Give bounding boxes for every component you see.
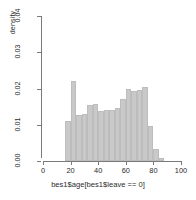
y-axis-tick bbox=[37, 125, 41, 126]
x-axis-tick-label: 0 bbox=[31, 166, 55, 175]
y-axis-tick bbox=[37, 161, 41, 162]
histogram-bar bbox=[159, 158, 165, 161]
histogram-plot: density 0.000.010.020.030.04 02040608010… bbox=[0, 0, 196, 200]
x-axis-tick bbox=[153, 161, 154, 165]
x-axis-tick bbox=[126, 161, 127, 165]
x-axis-title: bes1$age[bes1$leave == 0] bbox=[0, 180, 196, 189]
x-axis-tick bbox=[181, 161, 182, 165]
y-axis-tick-label: 0.04 bbox=[13, 1, 22, 31]
x-axis-tick-label: 20 bbox=[59, 166, 83, 175]
x-axis-tick-label: 100 bbox=[169, 166, 193, 175]
x-axis-tick bbox=[98, 161, 99, 165]
y-axis-tick-label: 0.02 bbox=[13, 73, 22, 103]
y-axis-tick bbox=[37, 89, 41, 90]
y-axis-line bbox=[41, 16, 42, 158]
plot-area bbox=[43, 16, 181, 161]
y-axis-tick-label: 0.01 bbox=[13, 109, 22, 139]
y-axis-tick bbox=[37, 16, 41, 17]
x-axis-tick-label: 40 bbox=[86, 166, 110, 175]
x-axis-line bbox=[43, 161, 181, 162]
x-axis-tick-label: 60 bbox=[114, 166, 138, 175]
y-axis-tick bbox=[37, 52, 41, 53]
x-axis-tick bbox=[71, 161, 72, 165]
y-axis-tick-label: 0.00 bbox=[13, 146, 22, 176]
x-axis-tick-label: 80 bbox=[141, 166, 165, 175]
x-axis-tick bbox=[43, 161, 44, 165]
y-axis-tick-label: 0.03 bbox=[13, 37, 22, 67]
